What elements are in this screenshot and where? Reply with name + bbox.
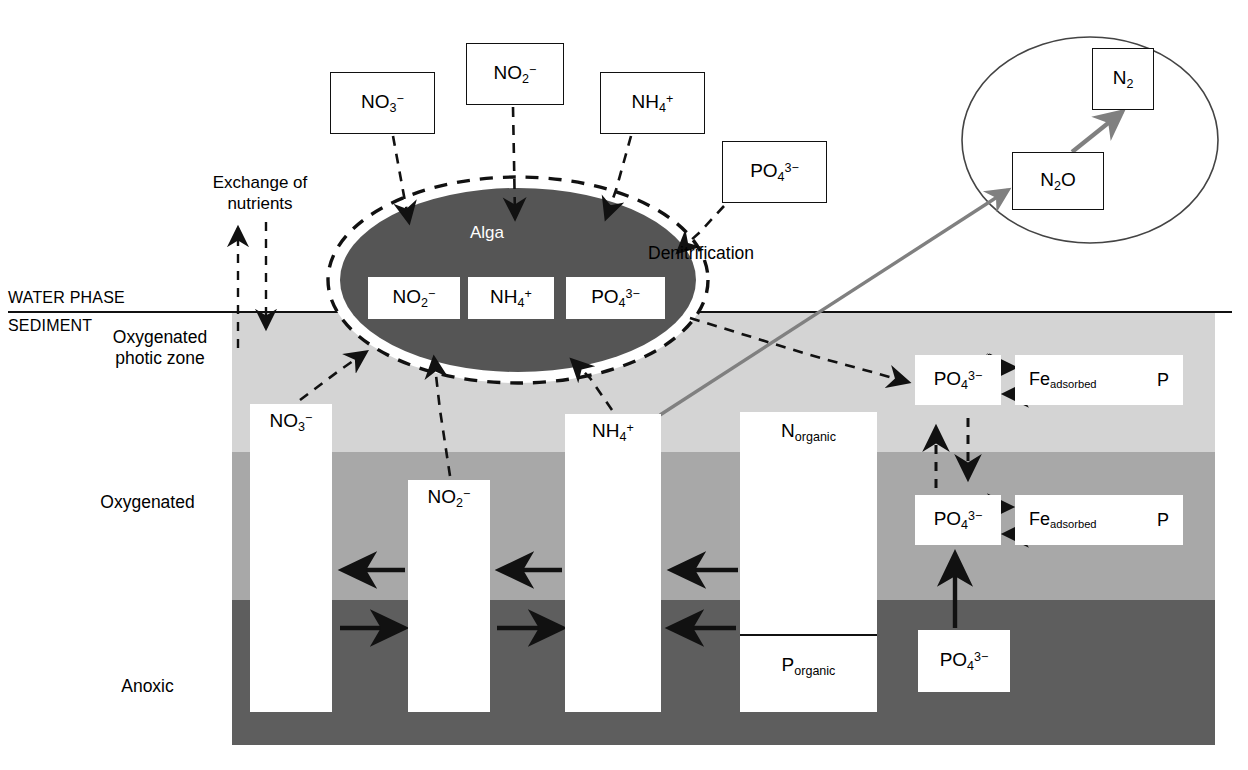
formula-sup: 3− <box>785 161 799 175</box>
formula-sub: 4 <box>518 296 525 310</box>
box-phosphate-oxygenated[interactable]: PO43− <box>915 495 1001 545</box>
formula-base: NH <box>632 91 659 112</box>
formula-sup: + <box>627 421 634 435</box>
exchange-line2: nutrients <box>227 194 292 213</box>
column-organic-matter[interactable]: Norganic Porganic <box>740 412 877 712</box>
formula-base: PO <box>591 286 618 307</box>
phosphorus-suffix: P <box>1157 510 1169 531</box>
formula-base: N <box>1040 169 1054 190</box>
formula-sub: 4 <box>620 430 627 444</box>
box-nitrate-water[interactable]: NO3− <box>330 72 435 134</box>
formula-sub: 4 <box>619 296 626 310</box>
formula-base: NO <box>270 410 299 431</box>
box-iron-adsorbed-phosphorus-oxygenated[interactable]: Feadsorbed P <box>1015 495 1183 545</box>
sediment-label: SEDIMENT <box>8 315 92 336</box>
formula-sup: + <box>666 92 673 106</box>
formula-sub: 4 <box>778 170 785 184</box>
formula-sup: − <box>305 411 312 425</box>
element-base: Fe <box>1029 509 1050 529</box>
formula-base: NH <box>490 286 517 307</box>
element-sub: adsorbed <box>1050 379 1097 391</box>
box-nitrous-oxide[interactable]: N2O <box>1012 152 1104 210</box>
phosphorus-suffix: P <box>1157 370 1169 391</box>
organic-divider-line <box>740 634 877 636</box>
formula-base: PO <box>934 368 961 389</box>
box-phosphate-anoxic[interactable]: PO43− <box>918 630 1010 692</box>
element-sub: adsorbed <box>1050 519 1097 531</box>
oxygenated-zone-label: Oxygenated <box>60 492 235 513</box>
column-nitrite-sediment[interactable]: NO2− <box>408 480 490 712</box>
formula-sub: 2 <box>1126 77 1133 91</box>
diagram-canvas: WATER PHASE SEDIMENT Oxygenated photic z… <box>0 0 1248 770</box>
box-phosphate-photic[interactable]: PO43− <box>915 355 1001 405</box>
exchange-of-nutrients-label: Exchange of nutrients <box>200 172 320 214</box>
box-nitrite-alga[interactable]: NO2− <box>368 277 460 319</box>
box-ammonium-water[interactable]: NH4+ <box>600 72 705 134</box>
formula-base: NO <box>393 286 422 307</box>
photic-zone-label: Oxygenated photic zone <box>85 327 235 369</box>
anoxic-zone-label: Anoxic <box>60 676 235 697</box>
formula-base: NO <box>494 62 523 83</box>
label-nitrogen-organic: Norganic <box>740 420 877 444</box>
formula-sub: 4 <box>961 518 968 532</box>
formula-sub: 3 <box>390 101 397 115</box>
formula-sub: 2 <box>1054 179 1061 193</box>
exchange-line1: Exchange of <box>213 173 308 192</box>
formula-sup: + <box>525 287 532 301</box>
formula-sub: 4 <box>659 101 666 115</box>
formula-sub: organic <box>795 430 836 444</box>
box-ammonium-alga[interactable]: NH4+ <box>468 277 554 319</box>
formula-base: N <box>1113 67 1127 88</box>
element-base: Fe <box>1029 369 1050 389</box>
formula-sub: 4 <box>967 659 974 673</box>
box-phosphate-alga[interactable]: PO43− <box>566 277 665 319</box>
column-nitrate-sediment[interactable]: NO3− <box>250 404 332 712</box>
label-phosphorus-organic: Porganic <box>740 654 877 678</box>
box-iron-adsorbed-phosphorus-photic[interactable]: Feadsorbed P <box>1015 355 1183 405</box>
formula-base: PO <box>934 508 961 529</box>
formula-base: PO <box>750 160 777 181</box>
formula-sup: − <box>463 487 470 501</box>
formula-base: NO <box>428 486 457 507</box>
formula-sub: organic <box>794 664 835 678</box>
box-phosphate-water[interactable]: PO43− <box>722 141 827 203</box>
photic-zone-line2: photic zone <box>115 348 205 368</box>
denitrification-label: Denitrification <box>648 243 754 264</box>
formula-sup: − <box>529 63 536 77</box>
formula-base: NH <box>592 420 619 441</box>
photic-zone-line1: Oxygenated <box>113 327 207 347</box>
sediment-band-anoxic <box>232 600 1215 745</box>
formula-base: PO <box>940 649 967 670</box>
formula-base: NO <box>361 91 390 112</box>
formula-sup: 3− <box>974 650 988 664</box>
box-dinitrogen[interactable]: N2 <box>1092 48 1154 110</box>
formula-sup: 3− <box>626 287 640 301</box>
formula-sup: − <box>428 287 435 301</box>
formula-sup: 3− <box>968 369 982 383</box>
formula-sub: 4 <box>961 378 968 392</box>
water-phase-label: WATER PHASE <box>8 287 125 308</box>
formula-sup: − <box>397 92 404 106</box>
box-nitrite-water[interactable]: NO2− <box>466 43 564 105</box>
column-ammonium-sediment[interactable]: NH4+ <box>565 414 661 712</box>
alga-label: Alga <box>470 222 504 243</box>
formula-sup: 3− <box>968 509 982 523</box>
formula-suffix: O <box>1061 169 1076 190</box>
formula-base: P <box>782 654 795 675</box>
formula-base: N <box>781 420 795 441</box>
